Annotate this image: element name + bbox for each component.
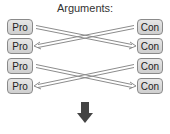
arrow-pro1-to-con2 <box>36 26 136 50</box>
down-arrow-icon <box>77 102 93 123</box>
arrow-con1-to-pro2 <box>34 26 134 50</box>
connection-arrows <box>0 0 170 134</box>
arrow-pro3-to-con4 <box>36 65 136 90</box>
arrow-con3-to-pro4 <box>34 65 134 90</box>
